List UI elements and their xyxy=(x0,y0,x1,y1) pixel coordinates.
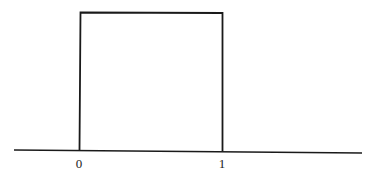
rect-function-plot xyxy=(0,0,376,171)
rect-pulse-line xyxy=(80,13,223,152)
x-tick-label-0: 0 xyxy=(76,157,83,170)
x-tick-label-1: 1 xyxy=(219,157,226,170)
x-axis xyxy=(14,150,362,153)
